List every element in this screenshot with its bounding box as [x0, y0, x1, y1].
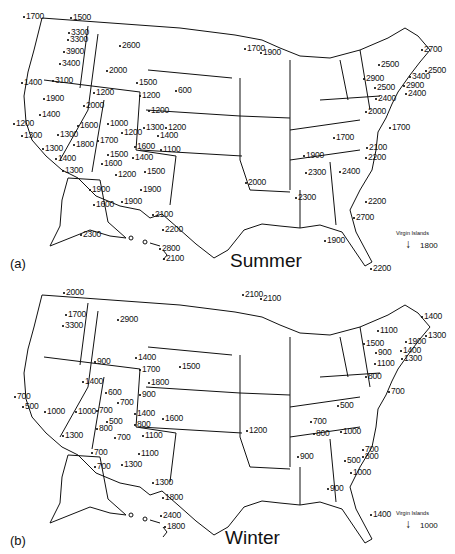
value-label: 1400	[24, 78, 42, 87]
value-label: 1700	[336, 133, 354, 142]
value-label: 1900	[46, 94, 64, 103]
season-title: Summer	[230, 250, 302, 272]
value-label: 900	[330, 484, 344, 493]
value-label: 1300	[428, 331, 446, 340]
value-label: 1300	[404, 354, 422, 363]
value-label: 800	[99, 424, 113, 433]
value-label: 1300	[65, 166, 83, 175]
winter-map-panel: 2000170033002900900140017001500180014007…	[0, 277, 455, 554]
value-label: 700	[97, 462, 111, 471]
value-label: 2000	[66, 288, 84, 297]
value-label: 800	[137, 420, 151, 429]
value-label: 1800	[151, 378, 169, 387]
value-label: 900	[300, 452, 314, 461]
value-label: 2100	[166, 254, 184, 263]
value-label: 1200	[16, 119, 34, 128]
value-label: 700	[99, 406, 113, 415]
value-label: 1000	[78, 407, 96, 416]
value-label: 1300	[24, 131, 42, 140]
value-label: 1400	[138, 353, 156, 362]
value-label: 3900	[66, 47, 84, 56]
value-label: 1900	[327, 236, 345, 245]
value-label: 2500	[381, 60, 399, 69]
value-label: 2000	[109, 66, 127, 75]
value-label: 500	[347, 456, 361, 465]
arrow-down-icon: ↓	[405, 518, 411, 530]
virgin-islands-value: 1800	[420, 241, 438, 250]
value-label: 2100	[155, 210, 173, 219]
value-label: 1900	[263, 48, 281, 57]
value-label: 3400	[62, 59, 80, 68]
value-label: 1300	[124, 460, 142, 469]
value-label: 2100	[369, 143, 387, 152]
value-label: 2300	[83, 230, 101, 239]
value-label: 2500	[428, 66, 446, 75]
value-label: 1400	[135, 153, 153, 162]
value-label: 2300	[308, 168, 326, 177]
value-label: 1000	[353, 468, 371, 477]
value-label: 500	[340, 401, 354, 410]
value-label: 1300	[155, 478, 173, 487]
value-label: 1900	[143, 185, 161, 194]
value-label: 1400	[160, 131, 178, 140]
value-label: 1700	[100, 136, 118, 145]
virgin-islands-label: Virgin Islands	[396, 230, 429, 236]
value-label: 1400	[42, 110, 60, 119]
value-label: 1200	[151, 106, 169, 115]
value-label: 2300	[298, 193, 316, 202]
panel-label: (b)	[10, 533, 26, 548]
value-label: 1400	[137, 409, 155, 418]
value-label: 1200	[118, 170, 136, 179]
value-label: 2400	[408, 89, 426, 98]
value-label: 600	[178, 86, 192, 95]
value-label: 1600	[104, 159, 122, 168]
value-label: 1100	[163, 145, 180, 154]
value-label: 2900	[120, 315, 138, 324]
virgin-islands-value: 1000	[420, 521, 438, 530]
value-label: 500	[25, 402, 39, 411]
value-label: 3300	[65, 321, 83, 330]
value-label: 1100	[377, 359, 394, 368]
value-label: 1100	[145, 431, 162, 440]
value-label: 2200	[368, 197, 386, 206]
value-label: 1200	[96, 88, 114, 97]
value-label: 800	[316, 429, 330, 438]
value-label: 2200	[165, 225, 183, 234]
value-label: 1500	[139, 78, 157, 87]
value-label: 1100	[380, 326, 397, 335]
value-label: 700	[117, 433, 131, 442]
value-label: 1600	[80, 121, 98, 130]
panel-label: (a)	[10, 256, 26, 271]
value-label: 3100	[55, 76, 73, 85]
value-label: 900	[378, 348, 392, 357]
value-label: 1700	[26, 12, 44, 21]
value-label: 600	[108, 388, 122, 397]
value-label: 1400	[85, 377, 103, 386]
value-label: 1400	[58, 154, 76, 163]
value-label: 1700	[68, 310, 86, 319]
value-label: 1800	[165, 493, 183, 502]
value-label: 900	[97, 357, 111, 366]
value-label: 700	[313, 417, 327, 426]
value-label: 2200	[368, 153, 386, 162]
value-label: 700	[17, 392, 31, 401]
value-label: 2000	[248, 178, 266, 187]
season-title: Winter	[225, 527, 280, 549]
value-label: 1900	[306, 151, 324, 160]
value-label: 1300	[60, 130, 78, 139]
value-label: 1000	[343, 427, 361, 436]
value-label: 1900	[92, 185, 110, 194]
value-label: 2000	[368, 107, 386, 116]
value-label: 1600	[96, 200, 114, 209]
value-label: 2800	[162, 244, 180, 253]
value-label: 2400	[378, 94, 396, 103]
summer-map-panel: 1700150033003300390026003400200014003100…	[0, 0, 455, 277]
value-label: 1700	[392, 123, 410, 132]
value-label: 3300	[70, 35, 88, 44]
value-label: 700	[120, 398, 134, 407]
value-label: 2700	[424, 45, 442, 54]
value-label: 2600	[122, 41, 140, 50]
value-label: 1800	[76, 140, 94, 149]
value-label: 2200	[373, 264, 391, 273]
value-label: 1200	[249, 426, 267, 435]
